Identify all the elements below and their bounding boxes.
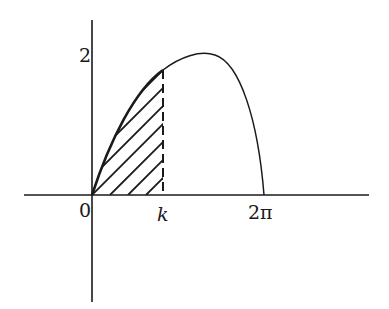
function-graph: 2 0 k 2π xyxy=(0,0,389,309)
two-pi-label: 2π xyxy=(248,201,273,223)
shaded-region-hatching xyxy=(92,27,254,195)
k-label: k xyxy=(157,203,169,225)
y-tick-label-2: 2 xyxy=(79,44,91,66)
curve-remaining xyxy=(163,53,264,195)
origin-label: 0 xyxy=(79,199,91,221)
